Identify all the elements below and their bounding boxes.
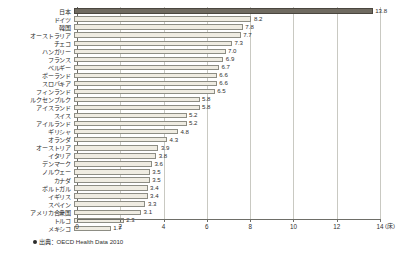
bar-value-label: 6.5 — [217, 88, 225, 94]
x-tick-label-12: 12 — [333, 223, 340, 230]
bar-value-label: 3.6 — [154, 161, 162, 167]
x-tick-label-10: 10 — [290, 223, 297, 230]
bar-row: ポーランド6.6 — [0, 71, 402, 79]
category-label: ドイツ — [0, 16, 74, 23]
source-note-text: 出典：OECD Health Data 2010 — [39, 238, 124, 246]
bar-value-label: 8.2 — [254, 16, 262, 22]
category-label: カナダ — [0, 177, 74, 184]
x-tick-mark-8 — [250, 219, 251, 222]
bar-value-label: 5.2 — [189, 112, 197, 118]
category-label: スロバキア — [0, 80, 74, 87]
category-label: ルクセンブルク — [0, 96, 74, 103]
x-tick-label-2: 2 — [119, 223, 123, 230]
bar-track: 7.3 — [74, 39, 402, 47]
bar-value-label: 3.5 — [152, 177, 160, 183]
bar — [74, 57, 223, 62]
bar-value-label: 7.8 — [245, 24, 253, 30]
category-label: ベルギー — [0, 64, 74, 71]
bar-row: イタリア3.8 — [0, 152, 402, 160]
bar-track: 3.4 — [74, 192, 402, 200]
bar — [74, 65, 219, 70]
bar-track: 7.0 — [74, 47, 402, 55]
bar — [74, 8, 373, 13]
category-label: アイルランド — [0, 120, 74, 127]
bar-row: ルクセンブルク5.8 — [0, 96, 402, 104]
x-axis-unit-label: (床) — [385, 223, 395, 230]
bar-track: 3.9 — [74, 144, 402, 152]
bar-track: 5.8 — [74, 104, 402, 112]
bar-value-label: 7.7 — [243, 32, 251, 38]
bar-track: 6.6 — [74, 71, 402, 79]
bar-track: 6.5 — [74, 87, 402, 95]
bar-row: ベルギー6.7 — [0, 63, 402, 71]
category-label: アメリカ合衆国 — [0, 209, 74, 216]
bar-row: イギリス3.4 — [0, 192, 402, 200]
bar-track: 6.9 — [74, 55, 402, 63]
bar — [74, 89, 215, 94]
bar-track: 6.7 — [74, 63, 402, 71]
bar-value-label: 7.0 — [228, 48, 236, 54]
bar — [74, 210, 141, 215]
bar-value-label: 7.3 — [234, 40, 242, 46]
bar — [74, 41, 232, 46]
bar-value-label: 3.4 — [150, 193, 158, 199]
bar — [74, 129, 178, 134]
category-label: オーストリア — [0, 144, 74, 151]
bar — [74, 97, 200, 102]
x-tick-mark-2 — [120, 219, 121, 222]
category-label: オランダ — [0, 136, 74, 143]
x-tick-mark-0 — [77, 219, 78, 222]
bar-value-label: 3.3 — [148, 201, 156, 207]
x-axis-ticks: 02468101214 — [77, 219, 380, 231]
bar-row: ポルトガル3.4 — [0, 184, 402, 192]
category-label: イギリス — [0, 193, 74, 200]
bar — [74, 16, 251, 21]
bar-value-label: 6.7 — [222, 64, 230, 70]
category-label: アイスランド — [0, 104, 74, 111]
bar-value-label: 3.1 — [144, 209, 152, 215]
bar-row: チェコ7.3 — [0, 39, 402, 47]
bar-row: ノルウェー3.5 — [0, 168, 402, 176]
x-tick-label-6: 6 — [205, 223, 209, 230]
bar-row: アメリカ合衆国3.1 — [0, 208, 402, 216]
bar-value-label: 6.9 — [226, 56, 234, 62]
bar-value-label: 3.9 — [161, 145, 169, 151]
x-tick-label-0: 0 — [75, 223, 79, 230]
category-label: ハンガリー — [0, 48, 74, 55]
bar-value-label: 5.8 — [202, 96, 210, 102]
bar-value-label: 5.2 — [189, 120, 197, 126]
bar — [74, 177, 150, 182]
bar-value-label: 6.6 — [219, 80, 227, 86]
category-label: ギリシャ — [0, 128, 74, 135]
bar-row: スイス5.2 — [0, 112, 402, 120]
bar-track: 6.6 — [74, 79, 402, 87]
bar-track: 3.1 — [74, 208, 402, 216]
bar-track: 8.2 — [74, 15, 402, 23]
bar — [74, 201, 145, 206]
bar-row: ギリシャ4.8 — [0, 128, 402, 136]
category-label: フィンランド — [0, 88, 74, 95]
bar-track: 3.6 — [74, 160, 402, 168]
bar-value-label: 6.6 — [219, 72, 227, 78]
bar-row: オーストラリア7.7 — [0, 31, 402, 39]
bar-value-label: 4.3 — [170, 137, 178, 143]
category-label: ノルウェー — [0, 168, 74, 175]
category-label: メキシコ — [0, 225, 74, 232]
bar-row: 日本13.8 — [0, 7, 402, 15]
bar — [74, 121, 187, 126]
category-label: オーストラリア — [0, 32, 74, 39]
x-tick-mark-12 — [337, 219, 338, 222]
bar-value-label: 5.8 — [202, 104, 210, 110]
bar-track: 3.5 — [74, 168, 402, 176]
x-tick-mark-10 — [293, 219, 294, 222]
bar — [74, 105, 200, 110]
bar-row: スロバキア6.6 — [0, 79, 402, 87]
category-label: ポーランド — [0, 72, 74, 79]
bar-track: 3.3 — [74, 200, 402, 208]
bar-row: ハンガリー7.0 — [0, 47, 402, 55]
bar-row: デンマーク3.6 — [0, 160, 402, 168]
bar — [74, 113, 187, 118]
bar-track: 7.7 — [74, 31, 402, 39]
bar-value-label: 4.8 — [180, 129, 188, 135]
bar-row: アイルランド5.2 — [0, 120, 402, 128]
